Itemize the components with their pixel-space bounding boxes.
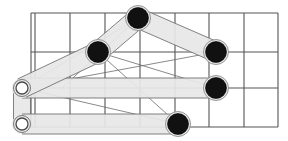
link-body-group <box>14 9 220 134</box>
joint-bottom <box>168 114 189 135</box>
ground-pivot-upper <box>16 82 28 94</box>
joint-top <box>128 8 149 29</box>
joint-mid-left <box>88 42 109 63</box>
ground-pivot-lower <box>16 118 28 130</box>
diagram-canvas <box>0 0 288 141</box>
mechanism-diagram <box>0 0 288 141</box>
joint-right-upper <box>206 42 227 63</box>
joint-right-lower <box>206 78 227 99</box>
